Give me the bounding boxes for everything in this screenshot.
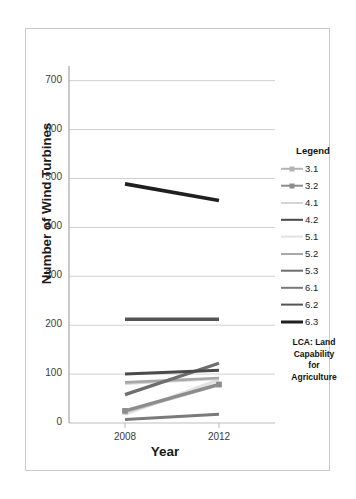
y-tick-label-100: 100 <box>22 367 62 378</box>
legend-item-6.3[interactable]: 6.3 <box>280 313 354 330</box>
legend-line-icon <box>281 218 303 220</box>
legend-line-icon <box>281 269 303 272</box>
legend-swatch-6.3 <box>280 316 304 328</box>
legend-item-3.1[interactable]: 3.1 <box>280 160 354 177</box>
legend-swatch-4.2 <box>280 214 304 226</box>
legend-label-4.1: 4.1 <box>305 197 318 208</box>
data-series-group <box>122 184 222 420</box>
legend-caption: LCA: LandCapabilityforAgriculture <box>280 337 354 383</box>
y-tick-label-0: 0 <box>22 416 62 427</box>
series-line-6.3 <box>125 184 219 201</box>
y-tick-label-200: 200 <box>22 318 62 329</box>
legend-label-6.2: 6.2 <box>305 299 318 310</box>
legend-swatch-5.3 <box>280 265 304 277</box>
legend-items: 3.13.24.14.25.15.25.36.16.26.3 <box>280 160 354 330</box>
legend-label-3.2: 3.2 <box>305 180 318 191</box>
legend-swatch-4.1 <box>280 197 304 209</box>
legend-item-6.2[interactable]: 6.2 <box>280 296 354 313</box>
series-line-4.2 <box>125 370 219 374</box>
x-axis-title: Year <box>60 444 270 459</box>
legend-item-3.2[interactable]: 3.2 <box>280 177 354 194</box>
y-tick-label-700: 700 <box>22 74 62 85</box>
wind-turbine-line-chart-figure: 0100200300400500600700 20082012 Number o… <box>0 0 356 499</box>
legend-caption-line-3: Agriculture <box>280 372 348 384</box>
legend-line-icon <box>281 320 303 323</box>
legend-line-icon <box>281 235 303 238</box>
legend-square-marker-icon <box>290 183 295 188</box>
legend-line-icon <box>281 202 303 204</box>
legend-item-5.2[interactable]: 5.2 <box>280 245 354 262</box>
legend-title: Legend <box>280 145 354 156</box>
legend-swatch-3.2 <box>280 180 304 192</box>
x-tick-label-2012: 2012 <box>196 431 242 442</box>
series-line-6.1 <box>125 414 219 419</box>
legend-swatch-6.2 <box>280 299 304 311</box>
legend-swatch-3.1 <box>280 163 304 175</box>
series-marker-3.2 <box>122 408 128 414</box>
legend-item-5.3[interactable]: 5.3 <box>280 262 354 279</box>
legend-label-3.1: 3.1 <box>305 163 318 174</box>
legend-label-5.3: 5.3 <box>305 265 318 276</box>
legend-label-5.1: 5.1 <box>305 231 318 242</box>
legend-item-4.1[interactable]: 4.1 <box>280 194 354 211</box>
legend-item-4.2[interactable]: 4.2 <box>280 211 354 228</box>
legend-swatch-5.1 <box>280 231 304 243</box>
legend: Legend 3.13.24.14.25.15.25.36.16.26.3 LC… <box>280 145 354 383</box>
legend-caption-line-2: for <box>280 360 348 372</box>
legend-item-6.1[interactable]: 6.1 <box>280 279 354 296</box>
series-marker-3.2 <box>216 382 222 388</box>
legend-line-icon <box>281 303 303 306</box>
legend-line-icon <box>281 253 303 255</box>
legend-swatch-5.2 <box>280 248 304 260</box>
legend-label-5.2: 5.2 <box>305 248 318 259</box>
legend-label-4.2: 4.2 <box>305 214 318 225</box>
legend-square-marker-icon <box>290 166 295 171</box>
legend-swatch-6.1 <box>280 282 304 294</box>
legend-label-6.1: 6.1 <box>305 282 318 293</box>
legend-item-5.1[interactable]: 5.1 <box>280 228 354 245</box>
legend-label-6.3: 6.3 <box>305 316 318 327</box>
y-axis-title: Number of Wind Turbines <box>39 94 54 314</box>
legend-line-icon <box>281 286 303 288</box>
x-tick-label-2008: 2008 <box>102 431 148 442</box>
legend-caption-line-0: LCA: Land <box>280 337 348 349</box>
legend-caption-line-1: Capability <box>280 349 348 361</box>
